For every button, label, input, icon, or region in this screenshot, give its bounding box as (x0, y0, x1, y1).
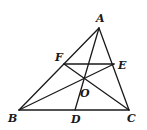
segment-be (19, 64, 114, 110)
label-o: O (80, 87, 90, 100)
label-c: C (127, 112, 136, 125)
label-b: B (7, 112, 17, 125)
label-a: A (95, 12, 105, 25)
label-f: F (54, 51, 64, 64)
segments-group (19, 28, 129, 110)
triangle-diagram: A B C D E F O (0, 0, 147, 130)
label-e: E (117, 59, 127, 72)
label-d: D (70, 113, 81, 126)
